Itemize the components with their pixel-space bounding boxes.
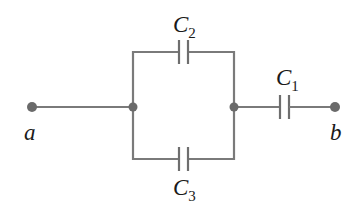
capacitor-c2-symbol [179,40,188,64]
left-junction-node [129,103,138,112]
capacitor-c1-symbol [280,95,289,119]
terminal-b-label: b [330,120,342,145]
c1-label: C1 [276,65,299,94]
terminal-a-label: a [24,120,36,145]
circuit-diagram: a b C2 C3 C1 [0,0,359,212]
terminal-a-node [27,102,37,112]
right-junction-node [230,103,239,112]
capacitor-c3-symbol [179,147,188,171]
c3-label: C3 [173,175,196,204]
terminal-b-node [330,102,340,112]
c2-label: C2 [173,12,196,41]
